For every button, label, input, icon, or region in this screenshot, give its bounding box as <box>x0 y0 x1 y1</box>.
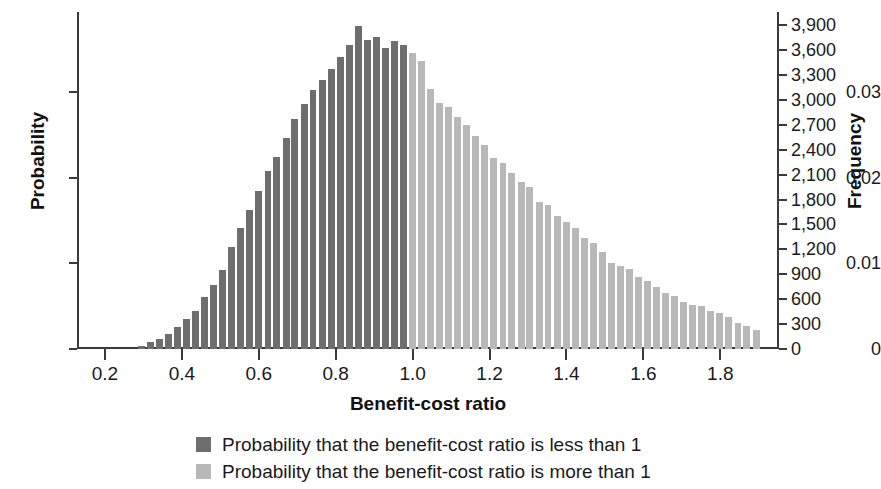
histogram-bar <box>265 171 272 349</box>
secondary-y-axis-tick <box>779 348 787 350</box>
histogram-bar <box>418 61 425 349</box>
x-axis-tick-label: 1.8 <box>707 363 733 385</box>
secondary-y-axis-tick-label: 2,100 <box>791 164 836 185</box>
legend-swatch-below-threshold <box>196 437 211 452</box>
legend-label-below-threshold: Probability that the benefit-cost ratio … <box>222 435 641 454</box>
histogram-bar <box>219 270 226 349</box>
histogram-bar <box>400 45 407 349</box>
histogram-bar <box>500 163 507 349</box>
histogram-bar <box>165 334 172 349</box>
y-axis-tick-label: 0 <box>819 339 881 360</box>
histogram-bar <box>382 48 389 349</box>
histogram-bar <box>391 41 398 349</box>
histogram-bar <box>490 158 497 349</box>
x-axis-tick <box>489 349 491 360</box>
histogram-bar <box>689 305 696 349</box>
histogram-bar <box>508 173 515 349</box>
secondary-y-axis-tick <box>779 149 787 151</box>
secondary-y-axis-tick <box>779 74 787 76</box>
histogram-bar <box>201 297 208 349</box>
secondary-y-axis-tick <box>779 298 787 300</box>
histogram-bar <box>328 69 335 349</box>
histogram-bar <box>228 247 235 349</box>
histogram-bar <box>246 210 253 349</box>
x-axis-tick <box>335 349 337 360</box>
histogram-bar <box>554 216 561 349</box>
histogram-bar <box>608 263 615 349</box>
y-axis-title: Probability <box>27 81 49 241</box>
histogram-bar <box>445 107 452 349</box>
histogram-bar <box>291 119 298 349</box>
y-axis-tick <box>69 91 77 93</box>
x-axis-tick-label: 1.2 <box>476 363 502 385</box>
secondary-y-axis-tick <box>779 273 787 275</box>
histogram-bar <box>545 205 552 349</box>
histogram-bar <box>427 89 434 349</box>
histogram-bar <box>671 296 678 349</box>
y-axis-tick <box>69 348 77 350</box>
secondary-y-axis-tick-label: 3,900 <box>791 15 836 36</box>
x-axis-tick-label: 0.8 <box>322 363 348 385</box>
x-axis-tick <box>642 349 644 360</box>
histogram-bar <box>138 346 145 349</box>
legend-item-below-threshold: Probability that the benefit-cost ratio … <box>196 431 756 458</box>
histogram-bar <box>581 238 588 349</box>
histogram-bar <box>174 327 181 349</box>
histogram-bar <box>599 252 606 350</box>
secondary-y-axis-tick-label: 0 <box>791 339 801 360</box>
histogram-bar <box>346 45 353 349</box>
secondary-y-axis-tick-label: 1,200 <box>791 239 836 260</box>
histogram-bar <box>572 228 579 349</box>
secondary-y-axis-tick <box>779 223 787 225</box>
x-axis-tick-label: 1.6 <box>630 363 656 385</box>
y-axis-tick <box>69 177 77 179</box>
secondary-y-axis-tick-label: 1,500 <box>791 214 836 235</box>
histogram-bar <box>563 222 570 349</box>
histogram-bar <box>237 228 244 349</box>
legend-item-above-threshold: Probability that the benefit-cost ratio … <box>196 458 756 485</box>
histogram-bar <box>147 342 154 349</box>
histogram-bar <box>409 53 416 349</box>
secondary-y-axis-tick <box>779 248 787 250</box>
secondary-y-axis-title: Frequency <box>844 81 866 241</box>
x-axis-tick-label: 0.6 <box>246 363 272 385</box>
x-axis-tick <box>181 349 183 360</box>
histogram-bar <box>753 330 760 349</box>
histogram-bar <box>454 117 461 349</box>
histogram-bar <box>273 157 280 349</box>
histogram-bar <box>337 57 344 349</box>
secondary-y-axis-tick-label: 3,600 <box>791 40 836 61</box>
secondary-y-axis-tick-label: 1,800 <box>791 189 836 210</box>
histogram-bar <box>481 145 488 349</box>
histogram-bar <box>698 306 705 349</box>
histogram-bar <box>436 103 443 349</box>
secondary-y-axis-tick-label: 900 <box>791 264 821 285</box>
histogram-bar <box>743 326 750 349</box>
histogram-bar <box>617 266 624 349</box>
histogram-bar <box>526 187 533 349</box>
secondary-y-axis-tick <box>779 323 787 325</box>
histogram-bar <box>635 277 642 349</box>
secondary-y-axis-tick-label: 3,300 <box>791 65 836 86</box>
x-axis-tick-label: 1.0 <box>399 363 425 385</box>
secondary-y-axis-tick-label: 600 <box>791 289 821 310</box>
x-axis-tick <box>412 349 414 360</box>
secondary-y-axis-tick-label: 2,700 <box>791 114 836 135</box>
x-axis-tick-label: 0.4 <box>169 363 195 385</box>
histogram-bar <box>716 313 723 349</box>
secondary-y-axis-tick-label: 2,400 <box>791 139 836 160</box>
histogram-bar <box>364 40 371 349</box>
histogram-bar <box>463 125 470 349</box>
histogram-bar <box>255 191 262 349</box>
legend-swatch-above-threshold <box>196 464 211 479</box>
histogram-bar <box>355 26 362 349</box>
bars-layer <box>78 12 778 349</box>
y-axis-tick <box>69 262 77 264</box>
histogram-bar <box>310 90 317 349</box>
histogram-bar <box>373 37 380 349</box>
histogram-bar <box>210 285 217 349</box>
secondary-y-axis-tick <box>779 99 787 101</box>
secondary-y-axis-tick <box>779 199 787 201</box>
x-axis-tick-label: 0.2 <box>92 363 118 385</box>
secondary-y-axis-tick <box>779 174 787 176</box>
